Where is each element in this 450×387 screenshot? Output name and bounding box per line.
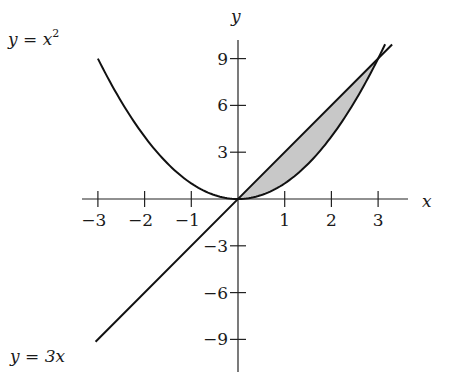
x-tick-label: −1 (175, 210, 200, 230)
x-tick-label: −2 (128, 210, 153, 230)
y-tick-label: −6 (203, 283, 228, 303)
y-tick-label: −9 (203, 329, 228, 349)
y-tick-label: 6 (217, 95, 228, 115)
x-axis-label: x (422, 191, 432, 211)
parabola-curve (98, 44, 385, 199)
x-tick-label: 2 (326, 210, 337, 230)
y-axis-label: y (230, 6, 241, 26)
line-label: y = 3x (9, 346, 65, 366)
parabola-label-text: y = x (7, 29, 53, 49)
x-tick-label: 3 (373, 210, 384, 230)
y-tick-label: 9 (217, 49, 228, 69)
parabola-label: y = x2 (7, 27, 59, 49)
parabola-label-exponent: 2 (52, 27, 59, 40)
x-ticks: −3−2−1123 (81, 191, 383, 230)
chart-canvas: −3−2−1123 963−3−6−9 x y y = x2 y = 3x (0, 0, 450, 387)
y-tick-label: −3 (203, 236, 228, 256)
x-tick-label: 1 (279, 210, 290, 230)
y-tick-label: 3 (217, 142, 228, 162)
x-tick-label: −3 (81, 210, 106, 230)
line-3x-curve (96, 45, 393, 342)
